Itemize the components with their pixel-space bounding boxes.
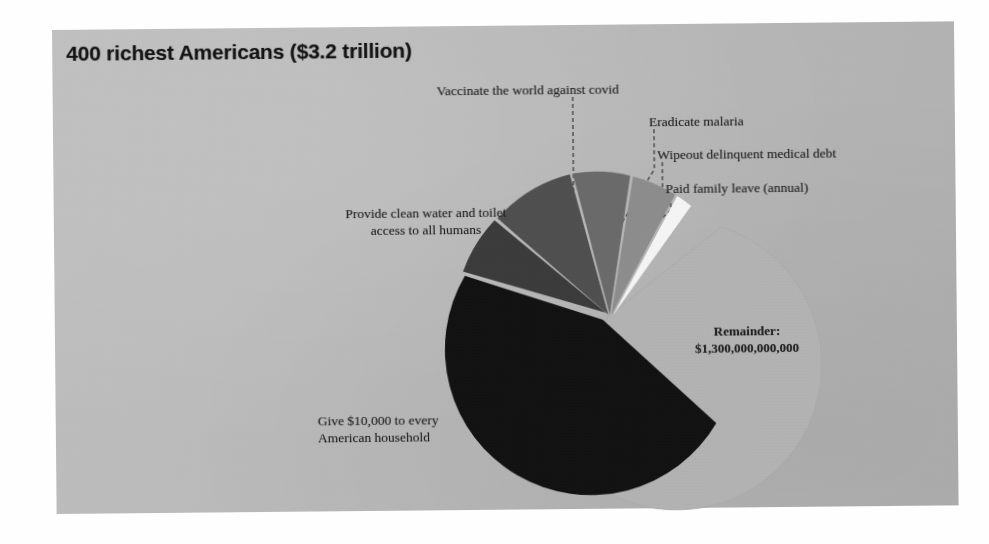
chart-panel-wrapper: 400 richest Americans ($3.2 trillion)	[0, 0, 989, 544]
label-remainder-line2: $1,300,000,000,000	[657, 339, 837, 357]
screenshot-root: 400 richest Americans ($3.2 trillion)	[0, 0, 989, 544]
label-clean-water-line2: access to all humans	[306, 221, 546, 241]
label-give-10000-line1: Give $10,000 to every	[318, 410, 548, 429]
label-remainder: Remainder: $1,300,000,000,000	[657, 322, 837, 357]
label-paid-family-leave: Paid family leave (annual)	[665, 179, 808, 198]
label-give-10000-line2: American household	[318, 428, 548, 447]
label-clean-water: Provide clean water and toilet access to…	[306, 203, 546, 240]
label-vaccinate: Vaccinate the world against covid	[437, 81, 619, 100]
label-remainder-line1: Remainder:	[657, 322, 837, 340]
chart-content: 400 richest Americans ($3.2 trillion)	[52, 21, 959, 514]
label-malaria: Eradicate malaria	[649, 112, 744, 130]
label-medical-debt: Wipeout delinquent medical debt	[657, 144, 836, 163]
label-give-10000: Give $10,000 to every American household	[318, 410, 548, 447]
